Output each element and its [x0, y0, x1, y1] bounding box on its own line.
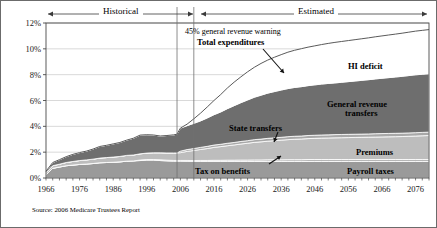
estimated-arrow-left [201, 11, 206, 16]
annotation-general-revenue-warning: 45% general revenue warning [185, 28, 281, 36]
chart-figure: 0%2%4%6%8%10%12%196619761986199620062016… [0, 0, 437, 228]
ytick-label: 10% [25, 44, 41, 54]
ytick-label: 2% [30, 147, 41, 157]
annotation-tax-on-benefits: Tax on benefits [195, 167, 250, 176]
xtick-label: 1986 [105, 184, 122, 194]
ytick-label: 8% [30, 70, 41, 80]
annotation-premiums: Premiums [356, 148, 393, 157]
ytick-label: 4% [30, 121, 41, 131]
ytick-label: 12% [25, 18, 41, 28]
annotation-hi-deficit: HI deficit [348, 62, 383, 71]
period-label-estimated: Estimated [294, 7, 338, 16]
annotation-general-revenue-transfers-line2: transfers [345, 109, 378, 118]
xtick-label: 2036 [273, 184, 290, 194]
annotation-total-expenditures: Total expenditures [197, 38, 264, 47]
historical-arrow-left [48, 11, 53, 16]
xtick-label: 2026 [239, 184, 256, 194]
xtick-label: 1976 [71, 184, 88, 194]
annotation-state-transfers: State transfers [229, 124, 282, 133]
annotation-payroll-taxes: Payroll taxes [347, 167, 394, 176]
period-label-historical: Historical [99, 7, 143, 16]
ytick-label: 6% [30, 96, 41, 106]
ytick-label: 0% [30, 173, 41, 183]
xtick-label: 2016 [205, 184, 222, 194]
xtick-label: 1996 [138, 184, 155, 194]
xtick-label: 2006 [172, 184, 189, 194]
historical-arrow-right [188, 11, 193, 16]
source-note: Source: 2006 Medicare Trustees Report [32, 206, 140, 213]
xtick-label: 2056 [340, 184, 357, 194]
xtick-label: 2076 [407, 184, 424, 194]
estimated-arrow-right [422, 11, 427, 16]
xtick-label: 2066 [373, 184, 390, 194]
xtick-label: 2046 [306, 184, 323, 194]
xtick-label: 1966 [38, 184, 55, 194]
